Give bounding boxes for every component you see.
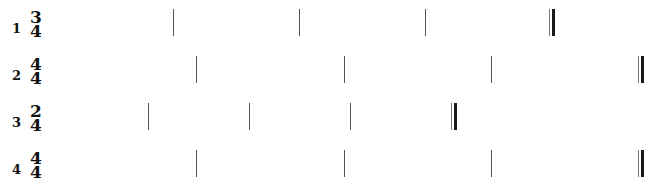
time-signature-denominator: 4 <box>29 165 43 179</box>
time-signature: 3 4 <box>29 10 43 38</box>
barline <box>148 103 149 130</box>
barline <box>350 103 351 130</box>
final-barline <box>638 56 645 83</box>
system-1: 1 3 4 <box>0 5 648 45</box>
time-signature-denominator: 4 <box>29 24 43 38</box>
barline <box>196 56 197 83</box>
barline <box>249 103 250 130</box>
final-barline <box>638 150 645 177</box>
system-2: 2 4 4 <box>0 52 648 92</box>
barline <box>425 9 426 36</box>
barline <box>491 56 492 83</box>
system-3: 3 2 4 <box>0 99 648 139</box>
time-signature: 4 4 <box>29 57 43 85</box>
barline <box>344 150 345 177</box>
barline <box>299 9 300 36</box>
time-signature-denominator: 4 <box>29 118 43 132</box>
final-barline <box>451 103 458 130</box>
system-number: 4 <box>12 163 21 176</box>
final-barline <box>549 9 556 36</box>
system-4: 4 4 4 <box>0 146 648 185</box>
barline <box>491 150 492 177</box>
barline <box>173 9 174 36</box>
barline <box>196 150 197 177</box>
system-number: 1 <box>12 22 21 35</box>
barline <box>344 56 345 83</box>
time-signature: 4 4 <box>29 151 43 179</box>
system-number: 2 <box>12 69 21 82</box>
time-signature: 2 4 <box>29 104 43 132</box>
time-signature-denominator: 4 <box>29 71 43 85</box>
system-number: 3 <box>12 116 21 129</box>
